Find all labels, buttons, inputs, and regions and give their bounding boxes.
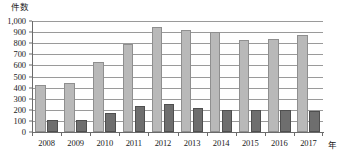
bar-group bbox=[148, 21, 177, 132]
x-axis-tick-mark bbox=[148, 132, 149, 136]
bar-series-light-2008 bbox=[35, 85, 46, 132]
bar-series-dark-2009 bbox=[76, 120, 87, 132]
y-axis-tick-label: 700 bbox=[14, 49, 26, 59]
bar-group bbox=[90, 21, 119, 132]
x-axis-tick-label-2011: 2011 bbox=[126, 138, 142, 148]
bar-series-dark-2011 bbox=[135, 106, 146, 132]
bar-group bbox=[207, 21, 236, 132]
y-axis-tick-label: 1,000 bbox=[7, 16, 26, 26]
bar-group bbox=[32, 21, 61, 132]
bar-group bbox=[236, 21, 265, 132]
bar-series-dark-2016 bbox=[280, 110, 291, 132]
bar-series-dark-2014 bbox=[222, 110, 233, 132]
x-axis-tick-mark bbox=[294, 132, 295, 136]
bar-series-dark-2015 bbox=[251, 110, 262, 132]
bar-series-light-2010 bbox=[93, 62, 104, 132]
bar-series-light-2017 bbox=[297, 35, 308, 132]
y-axis-tick-label: 300 bbox=[14, 94, 26, 104]
x-axis-tick-label-2008: 2008 bbox=[38, 138, 55, 148]
x-axis-tick-mark bbox=[265, 132, 266, 136]
bar-group bbox=[294, 21, 323, 132]
x-axis-tick-label-2012: 2012 bbox=[155, 138, 172, 148]
x-axis-unit-label: 年 bbox=[328, 138, 337, 150]
y-axis-tick-label: 500 bbox=[14, 72, 26, 82]
bar-series-light-2009 bbox=[64, 83, 75, 132]
y-axis-unit-label: 件数 bbox=[11, 2, 29, 12]
bars-layer bbox=[32, 21, 323, 132]
x-axis-tick-label-2015: 2015 bbox=[242, 138, 259, 148]
bar-series-light-2015 bbox=[239, 40, 250, 132]
x-axis-tick-mark bbox=[119, 132, 120, 136]
x-axis-tick-label-2010: 2010 bbox=[96, 138, 113, 148]
x-axis-tick-mark bbox=[32, 132, 33, 136]
bar-series-light-2016 bbox=[268, 39, 279, 132]
bar-series-dark-2012 bbox=[164, 104, 175, 132]
bar-series-light-2011 bbox=[123, 44, 134, 132]
bar-series-dark-2010 bbox=[105, 113, 116, 132]
bar-series-dark-2017 bbox=[309, 111, 320, 132]
x-axis-tick-mark bbox=[90, 132, 91, 136]
y-axis-tick-label: 800 bbox=[14, 38, 26, 48]
x-axis-tick-mark bbox=[178, 132, 179, 136]
x-axis-tick-label-2016: 2016 bbox=[271, 138, 288, 148]
x-axis-tick-mark bbox=[207, 132, 208, 136]
x-axis-tick-label-2013: 2013 bbox=[184, 138, 201, 148]
y-axis-tick-label: 200 bbox=[14, 105, 26, 115]
bar-group bbox=[61, 21, 90, 132]
x-axis-tick-mark bbox=[61, 132, 62, 136]
bar-group bbox=[178, 21, 207, 132]
y-axis-tick-label: 0 bbox=[22, 127, 26, 137]
y-axis-tick-label: 900 bbox=[14, 27, 26, 37]
y-axis-tick-label: 400 bbox=[14, 83, 26, 93]
bar-chart: 件数 1,0009008007006005004003002001000 200… bbox=[0, 0, 341, 157]
y-axis-tick-label: 600 bbox=[14, 60, 26, 70]
x-axis-tick-label-2014: 2014 bbox=[213, 138, 230, 148]
bar-series-dark-2013 bbox=[193, 108, 204, 132]
x-axis-tick-label-2009: 2009 bbox=[67, 138, 84, 148]
bar-group bbox=[265, 21, 294, 132]
y-axis-tick-label: 100 bbox=[14, 116, 26, 126]
x-axis-tick-marks bbox=[32, 132, 323, 137]
bar-group bbox=[119, 21, 148, 132]
x-axis-tick-label-2017: 2017 bbox=[300, 138, 317, 148]
bar-series-dark-2008 bbox=[47, 120, 58, 132]
y-axis-tick-labels: 1,0009008007006005004003002001000 bbox=[0, 21, 30, 132]
bar-series-light-2014 bbox=[210, 32, 221, 132]
x-axis-tick-labels: 2008200920102011201220132014201520162017 bbox=[32, 138, 323, 152]
x-axis-tick-mark bbox=[322, 132, 323, 136]
bar-series-light-2013 bbox=[181, 30, 192, 132]
bar-series-light-2012 bbox=[152, 27, 163, 132]
x-axis-tick-mark bbox=[236, 132, 237, 136]
